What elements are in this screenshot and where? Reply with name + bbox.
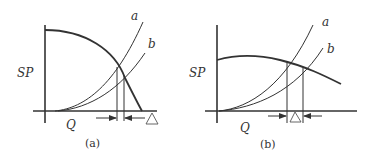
panel-caption: (a) (85, 137, 100, 150)
panel-a: SP Q a b (a) (17, 9, 158, 150)
delta-icon (146, 113, 158, 124)
curve-label-a: a (322, 15, 329, 29)
system-curve-b (58, 53, 145, 111)
diagram-canvas: SP Q a b (a) SP Q a b (b) (0, 0, 370, 161)
delta-icon (290, 112, 301, 122)
curve-label-b: b (148, 37, 156, 51)
y-axis-label: SP (17, 66, 34, 80)
fan-curve (45, 30, 142, 111)
x-axis-label: Q (240, 121, 250, 135)
panel-b: SP Q a b (b) (189, 15, 357, 151)
curve-label-a: a (131, 9, 138, 23)
system-curve-a (219, 25, 313, 111)
fan-curve (217, 56, 341, 84)
y-axis-label: SP (189, 66, 206, 80)
x-axis-label: Q (66, 118, 76, 132)
curve-label-b: b (327, 42, 335, 56)
panel-caption: (b) (260, 138, 276, 151)
